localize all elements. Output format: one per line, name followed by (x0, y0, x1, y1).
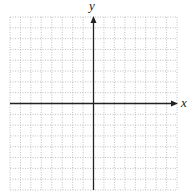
x-axis-arrow-icon (171, 101, 178, 107)
coordinate-grid (0, 0, 192, 196)
y-axis-label: y (89, 0, 95, 12)
x-axis-label: x (181, 96, 187, 109)
